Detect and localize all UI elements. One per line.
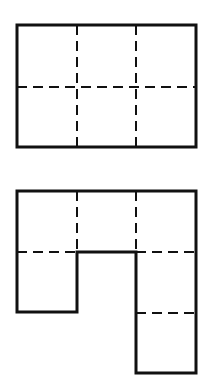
diagram-canvas [0, 0, 209, 390]
figure-irregular-net [17, 191, 196, 373]
figure-rectangle-net [17, 25, 196, 147]
net-outline [17, 191, 196, 373]
